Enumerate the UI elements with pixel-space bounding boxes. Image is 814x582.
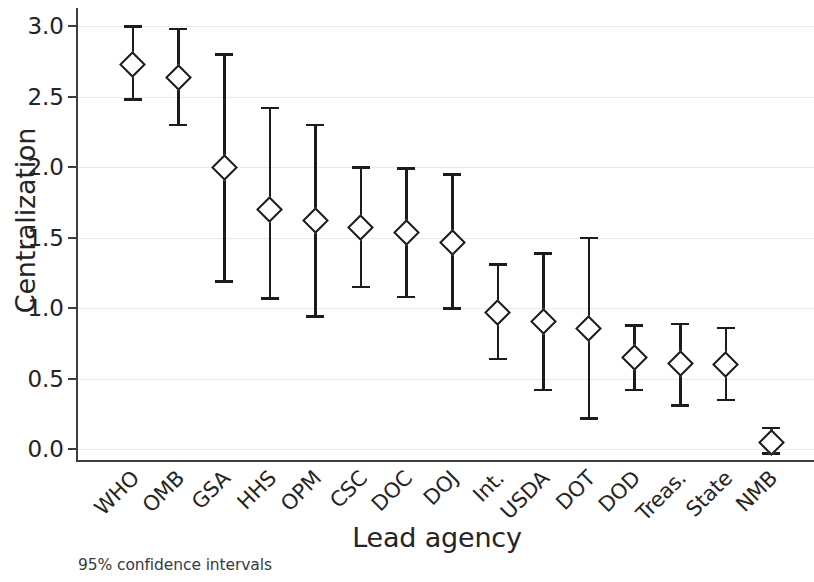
error-bar-cap-upper (717, 327, 735, 330)
y-axis-spine (76, 8, 78, 462)
y-axis-tick-label: 0.5 (27, 366, 64, 392)
error-bar-cap-upper (124, 25, 142, 28)
error-bar-cap-lower (124, 98, 142, 101)
diamond-marker-icon (393, 219, 420, 246)
x-axis-tick-label: GSA (187, 466, 235, 514)
error-bar-cap-lower (306, 315, 324, 318)
error-bar-cap-lower (489, 358, 507, 361)
gridline (78, 449, 814, 450)
error-bar-cap-lower (717, 399, 735, 402)
error-bar-cap-lower (443, 307, 461, 310)
error-bar-cap-lower (397, 296, 415, 299)
y-axis-tick-label: 2.5 (27, 84, 64, 110)
y-axis-tick-mark (68, 378, 76, 380)
diamond-marker-icon (119, 51, 146, 78)
error-bar-cap-upper (352, 166, 370, 169)
y-axis-tick-label: 2.0 (27, 154, 64, 180)
error-bar-cap-lower (215, 280, 233, 283)
error-bar-chart-figure: Centralization Lead agency 95% confidenc… (0, 0, 814, 582)
error-bar-cap-upper (215, 53, 233, 56)
x-axis-tick-label: WHO (90, 466, 144, 520)
x-axis-tick-label: DOT (551, 466, 600, 515)
gridline (78, 26, 814, 27)
y-axis-tick-mark (68, 237, 76, 239)
error-bar-cap-upper (169, 28, 187, 31)
y-axis-tick-mark (68, 166, 76, 168)
error-bar-cap-lower (625, 389, 643, 392)
gridline (78, 379, 814, 380)
x-axis-tick-label: OMB (138, 466, 189, 517)
gridline (78, 97, 814, 98)
x-axis-tick-label: CSC (325, 466, 372, 513)
x-axis-tick-label: State (681, 466, 737, 522)
error-bar-cap-upper (671, 323, 689, 326)
error-bar-cap-upper (534, 252, 552, 255)
x-axis-tick-label: NMB (732, 466, 783, 517)
error-bar-cap-upper (261, 107, 279, 110)
error-bar-cap-upper (397, 167, 415, 170)
x-axis-spine (76, 460, 814, 462)
error-bar-cap-upper (625, 324, 643, 327)
x-axis-tick-label: DOJ (419, 466, 463, 510)
y-axis-tick-label: 1.5 (27, 225, 64, 251)
x-axis-tick-label: USDA (496, 466, 554, 524)
gridline (78, 167, 814, 168)
y-axis-tick-label: 1.0 (27, 295, 64, 321)
error-bar-cap-lower (261, 297, 279, 300)
y-axis-tick-mark (68, 307, 76, 309)
diamond-marker-icon (302, 207, 329, 234)
y-axis-tick-label: 3.0 (27, 13, 64, 39)
x-axis-tick-label: Treas. (631, 466, 690, 525)
x-axis-tick-label: HHS (232, 466, 280, 514)
x-axis-tick-label: OPM (276, 466, 326, 516)
error-bar-cap-upper (443, 173, 461, 176)
diamond-marker-icon (621, 344, 648, 371)
error-bar-cap-upper (306, 124, 324, 127)
diamond-marker-icon (712, 351, 739, 378)
diamond-marker-icon (439, 229, 466, 256)
diamond-marker-icon (575, 315, 602, 342)
error-bar-cap-lower (534, 389, 552, 392)
plot-area: 0.00.51.01.52.02.53.0 (76, 8, 814, 462)
x-axis-tick-label: DOC (367, 466, 417, 516)
diamond-marker-icon (667, 350, 694, 377)
error-bar-cap-upper (580, 237, 598, 240)
x-axis-title: Lead agency (60, 522, 814, 553)
diamond-marker-icon (165, 64, 192, 91)
diamond-marker-icon (484, 299, 511, 326)
error-bar-cap-lower (580, 417, 598, 420)
y-axis-tick-mark (68, 96, 76, 98)
error-bar-cap-lower (169, 124, 187, 127)
diamond-marker-icon (211, 154, 238, 181)
y-axis-tick-label: 0.0 (27, 436, 64, 462)
y-axis-tick-mark (68, 25, 76, 27)
diamond-marker-icon (530, 308, 557, 335)
y-axis-tick-mark (68, 448, 76, 450)
error-bar-cap-lower (671, 404, 689, 407)
chart-caption: 95% confidence intervals (78, 556, 272, 574)
error-bar-cap-upper (489, 263, 507, 266)
diamond-marker-icon (256, 196, 283, 223)
error-bar-cap-lower (352, 286, 370, 289)
